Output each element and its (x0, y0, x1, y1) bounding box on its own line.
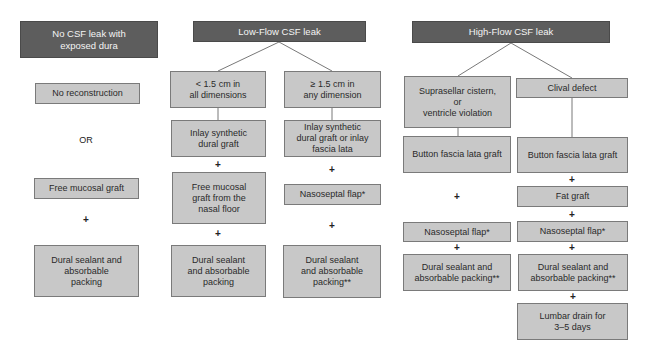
plus-connector: + (562, 243, 582, 253)
header-low-flow-csf-leak: Low-Flow CSF leak (193, 21, 366, 42)
node-nasoseptal-flap: Nasoseptal flap* (517, 221, 628, 242)
node-clival-defect: Clival defect (516, 78, 628, 98)
node-dural-sealant: Dural sealant and absorbable packing** (518, 254, 628, 291)
plus-connector: + (208, 229, 228, 239)
node-free-mucosal-graft: Free mucosal graft (34, 178, 139, 199)
plus-connector: + (563, 292, 583, 302)
node-dural-sealant: Dural sealant and absorbable packing (34, 245, 139, 297)
plus-connector: + (208, 160, 228, 170)
node-dural-sealant: Dural sealant and absorbable packing** (283, 245, 381, 298)
node-dural-sealant: Dural sealant and absorbable packing (171, 245, 266, 297)
node-inlay-graft-or-fascia-lata: Inlay synthetic dural graft or inlay fas… (284, 120, 381, 157)
plus-connector: + (562, 175, 582, 185)
header-high-flow-csf-leak: High-Flow CSF leak (412, 21, 610, 43)
or-connector: OR (71, 135, 101, 145)
node-button-fascia-lata-graft: Button fascia lata graft (517, 137, 628, 173)
node-free-mucosal-nasal-floor: Free mucosal graft from the nasal floor (172, 172, 266, 224)
plus-connector: + (322, 165, 342, 175)
plus-connector: + (447, 243, 467, 253)
plus-connector: + (562, 210, 582, 220)
node-fat-graft: Fat graft (517, 186, 628, 207)
node-nasoseptal-flap: Nasoseptal flap* (284, 184, 381, 205)
node-criteria-large: ≥ 1.5 cm in any dimension (284, 71, 381, 108)
plus-connector: + (76, 215, 96, 225)
node-dural-sealant: Dural sealant and absorbable packing** (403, 254, 511, 291)
node-suprasellar-ventricle: Suprasellar cistern, or ventricle violat… (404, 76, 511, 128)
plus-connector: + (447, 192, 467, 202)
node-inlay-synthetic-graft: Inlay synthetic dural graft (171, 120, 266, 157)
node-lumbar-drain: Lumbar drain for 3–5 days (517, 303, 628, 340)
node-criteria-small: < 1.5 cm in all dimensions (170, 71, 266, 108)
plus-connector: + (322, 221, 342, 231)
node-no-reconstruction: No reconstruction (35, 83, 140, 104)
node-button-fascia-lata-graft: Button fascia lata graft (403, 136, 511, 173)
header-no-csf-leak: No CSF leak with exposed dura (20, 21, 158, 58)
node-nasoseptal-flap: Nasoseptal flap* (403, 222, 511, 242)
